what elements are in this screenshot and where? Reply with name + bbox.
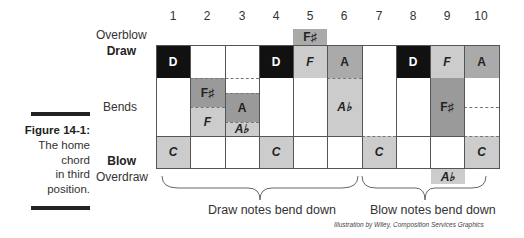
grid-line (362, 45, 363, 168)
grid-line (259, 45, 260, 168)
draw-cell: D (396, 45, 430, 78)
draw-cell: A (464, 45, 499, 78)
hole-number: 5 (293, 9, 327, 23)
row-label-overdraw: Overdraw (96, 170, 146, 184)
grid-line (396, 45, 397, 168)
draw-cell: A (327, 45, 362, 78)
hole-number: 9 (430, 9, 464, 23)
bend-cell: F (190, 107, 225, 136)
bend-divider (327, 78, 362, 79)
grid-line (190, 136, 362, 137)
row-label-overblow: Overblow (96, 28, 146, 42)
hole-number: 10 (464, 9, 498, 23)
bend-cell: F♯ (430, 78, 464, 136)
figure-title: Figure 14-1: (20, 123, 90, 138)
bend-cell: A (225, 93, 259, 122)
grid-line (464, 45, 465, 168)
brace-draw-icon (160, 174, 360, 204)
blow-cell: C (464, 136, 499, 168)
bend-divider (190, 107, 225, 108)
grid-line (499, 45, 500, 169)
grid-line (293, 45, 294, 168)
row-label-blow: Blow (96, 154, 136, 168)
hole-number: 4 (259, 9, 293, 23)
brace-label-draw: Draw notes bend down (208, 203, 336, 217)
bend-cell: A♭ (225, 122, 259, 136)
hole-number: 6 (327, 9, 361, 23)
caption-line: The home (20, 138, 90, 153)
bend-divider (464, 136, 499, 137)
bend-divider (225, 122, 259, 123)
draw-cell (362, 45, 396, 78)
bend-cell: F♯ (190, 78, 225, 107)
caption-line: chord (20, 153, 90, 168)
illustration-credit: Illustration by Wiley, Composition Servi… (334, 221, 484, 228)
draw-cell: D (259, 45, 293, 78)
grid-line (225, 45, 226, 168)
hole-number: 2 (190, 9, 224, 23)
blow-cell: C (362, 136, 396, 168)
overblow-cell: F♯ (293, 29, 327, 45)
draw-cell (225, 45, 259, 78)
row-label-bends: Bends (96, 100, 137, 114)
blow-cell: C (156, 136, 190, 168)
draw-cell: D (156, 45, 190, 78)
bend-divider (362, 136, 396, 137)
draw-cell (190, 45, 225, 78)
blow-cell: C (259, 136, 293, 168)
brace-label-blow: Blow notes bend down (370, 203, 496, 217)
bend-divider (464, 107, 499, 108)
draw-cell: F (430, 45, 464, 78)
hole-number: 8 (396, 9, 430, 23)
grid-line (430, 45, 431, 168)
draw-cell: F (293, 45, 327, 78)
brace-blow-icon (360, 174, 490, 204)
caption-line: position. (20, 182, 90, 197)
grid-line (190, 45, 191, 168)
grid-line (327, 45, 328, 168)
grid-line (156, 168, 499, 169)
caption-top-bar (31, 112, 90, 116)
hole-number: 1 (156, 9, 190, 23)
caption-bottom-bar (31, 206, 90, 210)
grid-line (156, 136, 190, 137)
bend-cell: A♭ (327, 78, 362, 136)
row-label-draw: Draw (96, 44, 136, 58)
bend-divider (225, 93, 259, 94)
grid-line (156, 45, 157, 168)
hole-number: 7 (362, 9, 396, 23)
hole-number: 3 (225, 9, 259, 23)
caption-line: in third (20, 167, 90, 182)
